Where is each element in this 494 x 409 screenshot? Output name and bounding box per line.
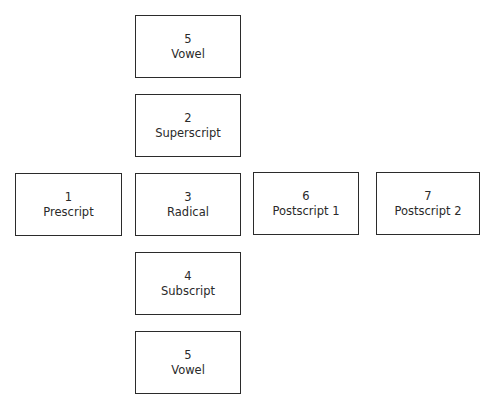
box-superscript: 2 Superscript <box>135 94 241 157</box>
box-number: 3 <box>184 190 191 205</box>
box-vowel-top: 5 Vowel <box>135 15 241 78</box>
box-prescript: 1 Prescript <box>15 173 122 236</box>
box-number: 5 <box>184 348 191 363</box>
box-number: 1 <box>65 190 72 205</box>
box-postscript-2: 7 Postscript 2 <box>376 172 480 235</box>
box-radical: 3 Radical <box>135 173 241 236</box>
box-label: Vowel <box>171 363 205 378</box>
box-label: Superscript <box>155 126 221 141</box>
box-number: 2 <box>184 111 191 126</box>
box-number: 4 <box>184 269 191 284</box>
box-subscript: 4 Subscript <box>135 252 241 315</box>
box-vowel-bottom: 5 Vowel <box>135 331 241 394</box>
box-number: 5 <box>184 32 191 47</box>
box-label: Postscript 1 <box>272 204 339 219</box>
box-label: Vowel <box>171 47 205 62</box>
box-label: Subscript <box>161 284 215 299</box>
box-label: Radical <box>167 205 209 220</box>
box-number: 6 <box>302 189 309 204</box>
box-label: Postscript 2 <box>394 204 461 219</box>
box-postscript-1: 6 Postscript 1 <box>253 172 359 235</box>
box-number: 7 <box>424 189 431 204</box>
box-label: Prescript <box>43 205 93 220</box>
